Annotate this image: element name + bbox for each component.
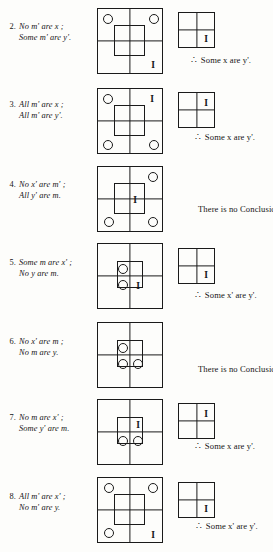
triliteral-diagram: I: [97, 88, 163, 154]
existence-marker-label: I: [202, 503, 210, 515]
premise-2-text: Some y' are m.: [19, 424, 69, 433]
circle-glyph: [148, 172, 158, 182]
premise-line-2: No m are y.: [4, 348, 96, 359]
triliteral-diagram: I: [97, 477, 163, 543]
premise-line-1: 8.All m' are x' ;: [4, 492, 96, 503]
biliteral-diagram: I: [178, 12, 215, 48]
premise-1-text: No m' are x ;: [19, 22, 64, 31]
premise-line-1: 6.No x' are m ;: [4, 337, 96, 348]
premise-2-text: No y are m.: [19, 269, 59, 278]
premise-1-text: No x' are m ;: [19, 337, 64, 346]
row-number: 3.: [4, 100, 19, 111]
diagram-horizontal-divider: [179, 420, 214, 421]
premises-block: 3.All m' are x ;All m' are y'.: [4, 100, 96, 121]
conclusion-block: There is no Conclusion.: [198, 364, 273, 375]
row-number: 8.: [4, 492, 19, 503]
conclusion-block: ∴ Some x are y'.: [195, 441, 255, 452]
existence-marker-label: I: [131, 194, 139, 206]
existence-marker-label: I: [149, 59, 157, 71]
premise-line-2: Some y' are m.: [4, 424, 96, 435]
conclusion-text: Some x are y'.: [201, 55, 251, 65]
conclusion-text: Some x are y'.: [205, 132, 255, 142]
therefore-icon: ∴: [195, 441, 203, 451]
symbolic-logic-exercise-page: 2.No m' are x ;Some m' are y'.II∴ Some x…: [0, 0, 273, 552]
premise-line-1: 3.All m' are x ;: [4, 100, 96, 111]
circle-glyph: [103, 94, 113, 104]
conclusion-block: There is no Conclusion: [198, 204, 273, 215]
diagram-horizontal-divider: [179, 29, 214, 30]
inner-square: [114, 25, 145, 56]
circle-glyph: [148, 483, 158, 493]
existence-marker-label: I: [149, 529, 157, 541]
therefore-icon: ∴: [191, 55, 199, 65]
inner-square: [114, 494, 145, 525]
diagram-horizontal-divider: [179, 499, 214, 500]
row-number: 4.: [4, 180, 19, 191]
conclusion-block: ∴ Some x are y'.: [195, 132, 255, 143]
premise-line-1: 2.No m' are x ;: [4, 22, 96, 33]
premises-block: 7.No m are x' ;Some y' are m.: [4, 413, 96, 434]
existence-marker-label: I: [134, 419, 142, 431]
premises-block: 4.No x' are m' ;All y' are m.: [4, 180, 96, 201]
circle-glyph: [104, 217, 114, 227]
biliteral-diagram: I: [178, 92, 215, 128]
row-number: 6.: [4, 337, 19, 348]
existence-marker-label: I: [202, 408, 210, 420]
circle-glyph: [118, 359, 128, 369]
premise-line-2: No m' are y.: [4, 503, 96, 514]
conclusion-block: ∴ Some x are y'.: [191, 55, 251, 66]
therefore-icon: ∴: [195, 132, 203, 142]
inner-square: [114, 105, 145, 136]
circle-glyph: [118, 280, 128, 290]
premise-line-1: 5.Some m are x' ;: [4, 258, 96, 269]
inner-square: [114, 183, 145, 214]
circle-glyph: [118, 343, 128, 353]
premise-2-text: Some m' are y'.: [19, 33, 71, 42]
triliteral-diagram: I: [97, 399, 163, 465]
premise-2-text: All m' are y'.: [19, 111, 63, 120]
diagram-horizontal-divider: [179, 109, 214, 110]
premise-line-2: No y are m.: [4, 269, 96, 280]
premises-block: 5.Some m are x' ;No y are m.: [4, 258, 96, 279]
premises-block: 2.No m' are x ;Some m' are y'.: [4, 22, 96, 43]
circle-glyph: [149, 140, 159, 150]
triliteral-diagram: I: [97, 8, 163, 74]
premises-block: 8.All m' are x' ;No m' are y.: [4, 492, 96, 513]
circle-glyph: [148, 217, 158, 227]
row-number: 2.: [4, 22, 19, 33]
row-number: 5.: [4, 258, 19, 269]
triliteral-diagram: I: [97, 166, 163, 232]
premise-line-1: 7.No m are x' ;: [4, 413, 96, 424]
triliteral-diagram: [97, 322, 163, 388]
premise-2-text: No m are y.: [19, 348, 58, 357]
premise-2-text: No m' are y.: [19, 503, 60, 512]
triliteral-diagram: I: [97, 243, 163, 309]
diagram-horizontal-divider: [179, 265, 214, 266]
premise-line-2: All y' are m.: [4, 191, 96, 202]
circle-glyph: [104, 528, 114, 538]
premise-line-2: All m' are y'.: [4, 111, 96, 122]
existence-marker-label: I: [202, 269, 210, 281]
premises-block: 6.No x' are m ;No m are y.: [4, 337, 96, 358]
biliteral-diagram: I: [178, 248, 215, 284]
biliteral-diagram: I: [178, 482, 215, 518]
biliteral-diagram: I: [178, 403, 215, 439]
circle-glyph: [103, 14, 113, 24]
conclusion-text: Some x are y'.: [205, 441, 255, 451]
conclusion-text: Some x' are y'.: [206, 521, 258, 531]
conclusion-text: There is no Conclusion: [198, 204, 273, 214]
conclusion-block: ∴ Some x' are y'.: [195, 290, 257, 301]
therefore-icon: ∴: [195, 290, 203, 300]
premise-1-text: No x' are m' ;: [19, 180, 66, 189]
premise-1-text: All m' are x' ;: [19, 492, 66, 501]
premise-line-2: Some m' are y'.: [4, 33, 96, 44]
circle-glyph: [118, 436, 128, 446]
circle-glyph: [149, 14, 159, 24]
circle-glyph: [133, 436, 143, 446]
premise-1-text: No m are x' ;: [19, 413, 64, 422]
premise-line-1: 4.No x' are m' ;: [4, 180, 96, 191]
existence-marker-label: I: [148, 93, 156, 105]
circle-glyph: [118, 264, 128, 274]
circle-glyph: [103, 140, 113, 150]
existence-marker-label: I: [134, 280, 142, 292]
